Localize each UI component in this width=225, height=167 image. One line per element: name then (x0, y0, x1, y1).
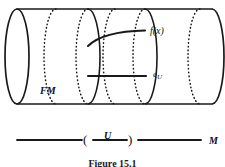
label-eu-subscript: U (157, 73, 162, 81)
label-section-point-fx: f(x) (150, 26, 164, 36)
label-open-set-u: U (104, 131, 111, 141)
fiber-ellipse-back-u-left (76, 9, 88, 104)
paren-close-glyph: ) (128, 133, 132, 146)
paren-open-glyph: ( (83, 133, 87, 146)
fiber-ellipse-back-x (133, 9, 145, 104)
figure-caption: Figure 15.1 (0, 158, 225, 167)
principal-bundle-cylinder-diagram (0, 0, 225, 167)
cylinder-left-cap-ellipse (5, 9, 29, 104)
fiber-ellipse-front-u-left (88, 9, 100, 104)
label-base-manifold-m: M (209, 136, 218, 146)
fiber-ellipse-front-x (145, 9, 157, 104)
fiber-ellipse-back-interior (103, 9, 115, 104)
figure-container: FM f(x) eU ( U ) M Figure 15.1 (0, 0, 225, 167)
section-curve-fx (88, 31, 145, 47)
cylinder-right-cap-arc (212, 9, 224, 104)
label-identity-section-eu: eU (153, 70, 162, 81)
fiber-ellipse-back-right (188, 9, 200, 104)
label-total-space-fm: FM (40, 86, 56, 96)
